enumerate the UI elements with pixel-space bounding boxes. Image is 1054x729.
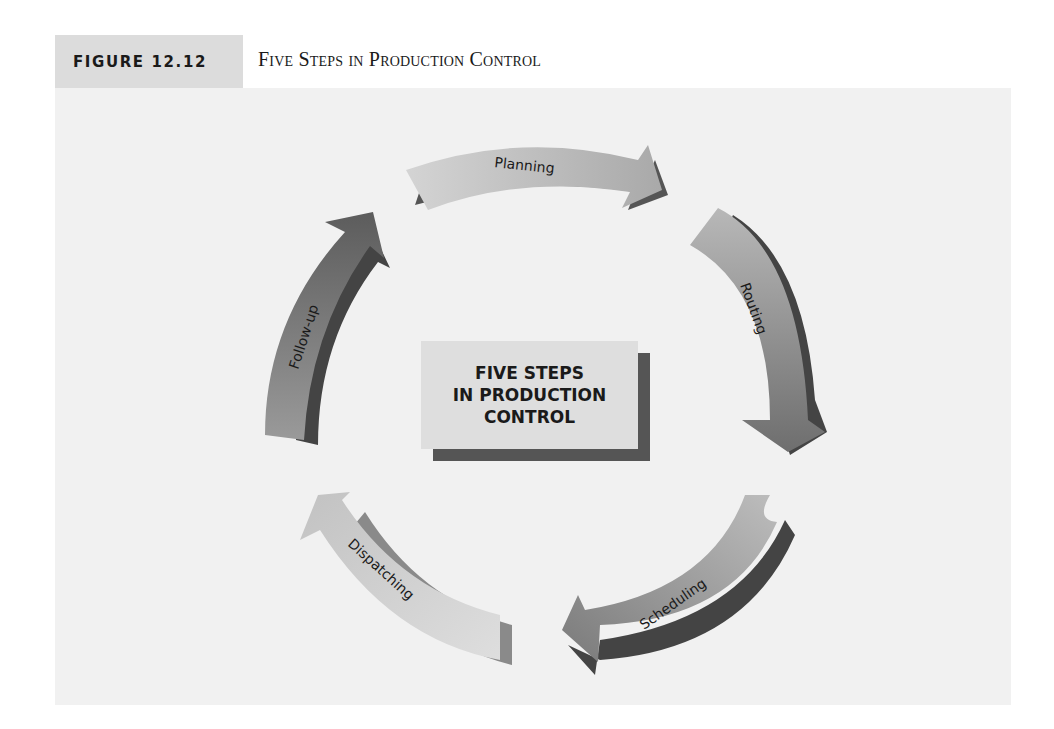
center-title-line-1: FIVE STEPS <box>453 362 606 384</box>
center-title-line-3: CONTROL <box>453 406 606 428</box>
arrow-dispatching: Dispatching <box>300 492 512 665</box>
arrow-follow-up: Follow-up <box>265 212 390 445</box>
center-title-line-2: IN PRODUCTION <box>453 384 606 406</box>
center-title-box: FIVE STEPS IN PRODUCTION CONTROL <box>421 341 638 449</box>
arrow-planning: Planning <box>406 145 668 210</box>
arrow-scheduling: Scheduling <box>562 495 795 675</box>
arrow-routing: Routing <box>690 208 827 455</box>
